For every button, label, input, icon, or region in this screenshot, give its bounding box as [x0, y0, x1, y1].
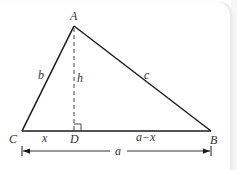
segment-label-a-minus-x: a−x — [136, 130, 156, 144]
vertex-label-d: D — [69, 132, 79, 146]
triangle-diagram: A B C D b c h x a−x a — [0, 0, 237, 170]
segment-label-x: x — [41, 131, 48, 145]
side-b — [22, 26, 74, 131]
side-label-b: b — [38, 68, 44, 82]
vertex-label-b: B — [210, 133, 218, 147]
right-angle-marker — [74, 124, 81, 131]
side-c — [74, 26, 211, 131]
dimension-label-a: a — [115, 144, 121, 158]
vertex-label-a: A — [69, 9, 78, 23]
side-label-c: c — [144, 68, 150, 82]
altitude-label-h: h — [77, 71, 83, 85]
vertex-label-c: C — [9, 132, 18, 146]
